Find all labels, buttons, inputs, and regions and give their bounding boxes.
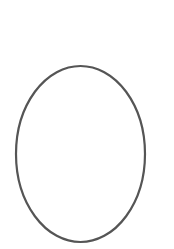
drawing-canvas bbox=[0, 0, 174, 249]
ellipse-outline bbox=[16, 66, 145, 242]
